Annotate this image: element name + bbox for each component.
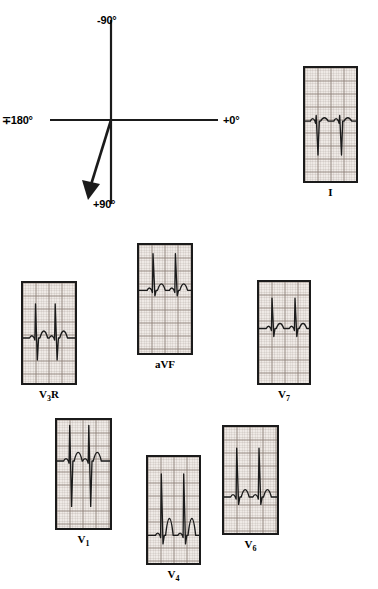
ecg-grid-paper [148, 457, 199, 563]
ecg-grid-paper [57, 420, 110, 528]
ecg-grid-paper [259, 282, 309, 383]
ecg-strip-label-lead-i: I [303, 186, 358, 198]
ecg-grid-paper [139, 245, 191, 353]
ecg-strip-frame [257, 280, 311, 385]
ecg-strip-lead-v7: V7 [257, 280, 311, 404]
ecg-strip-lead-v6: V6 [222, 425, 279, 554]
ecg-grid-paper [23, 283, 75, 383]
ecg-axis-figure: -90° +90° ∓180° +0° IV3RaVFV7V1V4V6 [0, 0, 378, 589]
ecg-strip-lead-v4: V4 [146, 455, 201, 584]
ecg-strip-lead-v1: V1 [55, 418, 112, 549]
ecg-strip-label-lead-avf: aVF [137, 358, 193, 370]
ecg-strip-lead-v3r: V3R [21, 281, 77, 404]
ecg-strip-lead-i: I [303, 66, 358, 202]
ecg-strip-frame [222, 425, 279, 535]
qrs-axis-reference-frame: -90° +90° ∓180° +0° [40, 8, 255, 223]
ecg-strip-frame [21, 281, 77, 385]
qrs-axis-vector-shaft [90, 120, 111, 188]
ecg-strip-label-lead-v6: V6 [222, 538, 279, 553]
ecg-strip-label-lead-v3r: V3R [21, 388, 77, 403]
ecg-strip-lead-avf: aVF [137, 243, 193, 374]
ecg-grid-paper [305, 68, 356, 181]
ecg-strip-frame [137, 243, 193, 355]
ecg-strip-frame [55, 418, 112, 530]
qrs-axis-vector-arrowhead [82, 180, 100, 200]
ecg-strip-label-lead-v4: V4 [146, 568, 201, 583]
axis-label-inferior: +90° [93, 198, 115, 210]
ecg-grid-paper [224, 427, 277, 533]
axis-label-right: +0° [223, 114, 239, 126]
ecg-strip-label-lead-v1: V1 [55, 533, 112, 548]
ecg-strip-frame [146, 455, 201, 565]
axis-label-superior: -90° [97, 14, 117, 26]
axis-label-left: ∓180° [2, 114, 33, 127]
ecg-strip-label-lead-v7: V7 [257, 388, 311, 403]
ecg-strip-frame [303, 66, 358, 183]
